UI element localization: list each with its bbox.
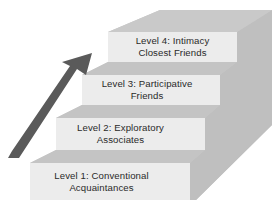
level-2-label: Level 2: Exploratory Associates (56, 122, 185, 145)
level-4-label: Level 4: Intimacy Closest Friends (108, 35, 237, 58)
level-1-label: Level 1: Conventional Acquaintances (30, 170, 173, 193)
level-4-subtitle: Closest Friends (108, 47, 237, 59)
level-1-title: Level 1: Conventional (30, 170, 173, 182)
level-4-title: Level 4: Intimacy (108, 35, 237, 47)
level-2-subtitle: Associates (56, 134, 185, 146)
level-3-title: Level 3: Participative (82, 78, 212, 90)
level-2-title: Level 2: Exploratory (56, 122, 185, 134)
tread-2 (56, 105, 220, 118)
staircase-diagram: Level 4: Intimacy Closest Friends Level … (0, 0, 279, 210)
level-1-subtitle: Acquaintances (30, 182, 173, 194)
tread-1 (30, 150, 205, 163)
tread-3 (82, 62, 237, 75)
level-3-label: Level 3: Participative Friends (82, 78, 212, 101)
level-3-subtitle: Friends (82, 90, 212, 102)
